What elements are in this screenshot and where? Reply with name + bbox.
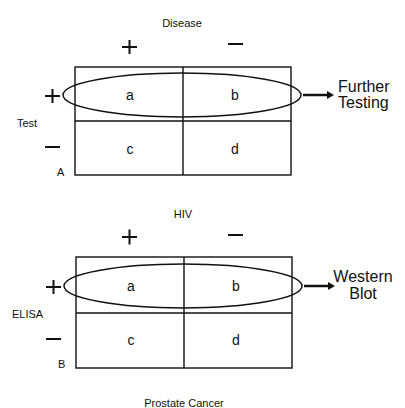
cell-c: c [128,332,135,348]
arrow-right-icon [304,282,335,290]
cell-a: a [126,87,134,103]
row-header-elisa: ELISA [12,308,44,320]
footer-caption: Prostate Cancer [144,397,224,408]
row-plus-icon [45,89,60,103]
cell-b: b [232,278,240,294]
two-by-two-diagram: Disease a b c d Test A [0,0,405,408]
panel-label-b: B [58,358,65,370]
outcome-line-1: Western [333,268,392,285]
outcome-line-1: Further [338,78,390,95]
outcome-line-2: Testing [338,94,389,111]
panel-a: Disease a b c d Test A [17,17,390,178]
cell-d: d [232,332,240,348]
column-header-hiv: HIV [174,208,193,220]
cell-c: c [127,141,134,157]
outcome-line-2: Blot [349,285,377,302]
column-plus-icon [122,230,137,245]
column-header-disease: Disease [162,17,202,29]
contingency-grid [75,67,291,175]
arrow-right-icon [303,91,334,99]
row-plus-icon [46,280,61,294]
cell-d: d [231,141,239,157]
cell-b: b [231,87,239,103]
positive-row-ellipse [64,264,302,308]
panel-b: HIV a b c d ELISA B We [12,208,393,370]
panel-label-a: A [57,166,65,178]
column-plus-icon [122,40,137,54]
positive-row-ellipse [63,73,301,117]
contingency-grid [76,257,292,368]
row-header-test: Test [17,117,37,129]
cell-a: a [127,278,135,294]
